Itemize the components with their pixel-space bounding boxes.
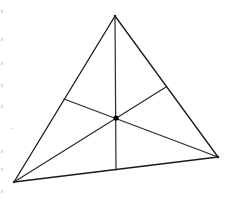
median-from-bottom-right [64, 99, 218, 157]
scan-artifacts [1, 10, 12, 193]
vertex-top [114, 15, 116, 17]
centroid-point [113, 115, 118, 120]
median-from-bottom-left [14, 87, 166, 182]
vertex-bottom-left [13, 181, 15, 183]
edge-right [115, 16, 218, 157]
medians [14, 16, 218, 182]
median-from-top [115, 16, 116, 170]
triangle-medians-diagram [0, 0, 233, 199]
vertex-bottom-right [217, 156, 219, 158]
